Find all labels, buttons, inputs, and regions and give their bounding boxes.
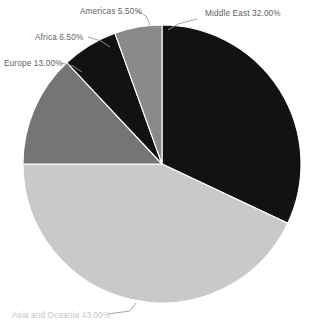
leader-line-asia-and-oceania [108, 303, 136, 314]
slice-label-middle-east: Middle East 32.00% [205, 9, 281, 18]
slice-label-americas: Americas 5.50% [80, 7, 142, 16]
pie-slices-group [23, 25, 301, 303]
slice-label-africa: Africa 6.50% [35, 33, 83, 42]
slice-label-europe: Europe 13.00% [4, 59, 63, 68]
pie-chart-canvas: Middle East 32.00%Asia and Oceania 43.00… [0, 0, 311, 326]
pie-chart-figure: Middle East 32.00%Asia and Oceania 43.00… [0, 0, 311, 326]
slice-label-asia-and-oceania: Asia and Oceania 43.00% [12, 311, 110, 320]
